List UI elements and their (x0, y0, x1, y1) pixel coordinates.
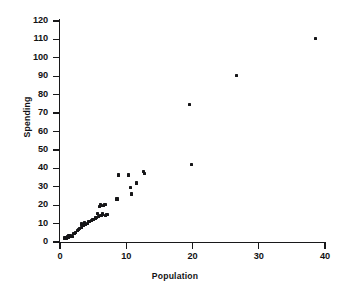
y-axis-tick (53, 131, 59, 132)
data-point (135, 181, 138, 184)
data-point (115, 197, 118, 200)
y-axis-tick-label: 90 (8, 71, 48, 80)
data-point (130, 192, 133, 195)
x-axis-title: Population (0, 271, 350, 281)
y-axis-tick (53, 76, 59, 77)
data-point (105, 213, 108, 216)
y-axis-tick (53, 20, 59, 21)
y-axis-tick-label: 30 (8, 182, 48, 191)
x-axis-tick (258, 243, 259, 249)
y-axis-title: Spending (22, 82, 32, 152)
data-point (235, 74, 238, 77)
data-point (127, 173, 130, 176)
x-axis-tick (192, 243, 193, 249)
y-axis-tick-label: 0 (8, 237, 48, 246)
x-axis-tick-label: 40 (310, 252, 340, 261)
y-axis-tick (53, 186, 59, 187)
x-axis-tick (324, 243, 325, 249)
y-axis-tick-label: 100 (8, 53, 48, 62)
y-axis-tick (53, 57, 59, 58)
y-axis-tick (53, 223, 59, 224)
x-axis-tick-label: 20 (178, 252, 208, 261)
y-axis-tick (53, 168, 59, 169)
plot-area (60, 21, 325, 242)
y-axis-tick (53, 94, 59, 95)
y-axis-tick (53, 149, 59, 150)
x-axis-tick-label: 10 (111, 252, 141, 261)
data-point (70, 235, 73, 238)
y-axis-tick-label: 120 (8, 16, 48, 25)
y-axis-tick (53, 205, 59, 206)
data-point (190, 163, 193, 166)
data-point (143, 172, 146, 175)
data-point (117, 173, 120, 176)
x-axis-tick (126, 243, 127, 249)
y-axis-tick-label: 10 (8, 219, 48, 228)
y-axis-tick (53, 241, 59, 242)
x-axis-tick-label: 30 (244, 252, 274, 261)
y-axis-tick-label: 20 (8, 200, 48, 209)
y-axis-tick-label: 110 (8, 34, 48, 43)
y-axis-tick-label: 40 (8, 163, 48, 172)
scatter-plot-figure: 0102030405060708090100110120 010203040 P… (0, 0, 350, 301)
x-axis-tick-label: 0 (45, 252, 75, 261)
data-point (103, 203, 106, 206)
y-axis-tick (53, 112, 59, 113)
x-axis-tick (59, 243, 60, 249)
y-axis-tick (53, 39, 59, 40)
